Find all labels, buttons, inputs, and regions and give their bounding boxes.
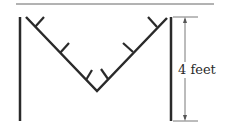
v-branch — [26, 17, 167, 91]
arrow-down-icon — [183, 115, 187, 121]
dimension-label: 4 feet — [177, 62, 217, 78]
right-branch-tines — [101, 17, 157, 79]
arrow-up-icon — [183, 17, 187, 23]
left-branch-tines — [35, 17, 92, 80]
